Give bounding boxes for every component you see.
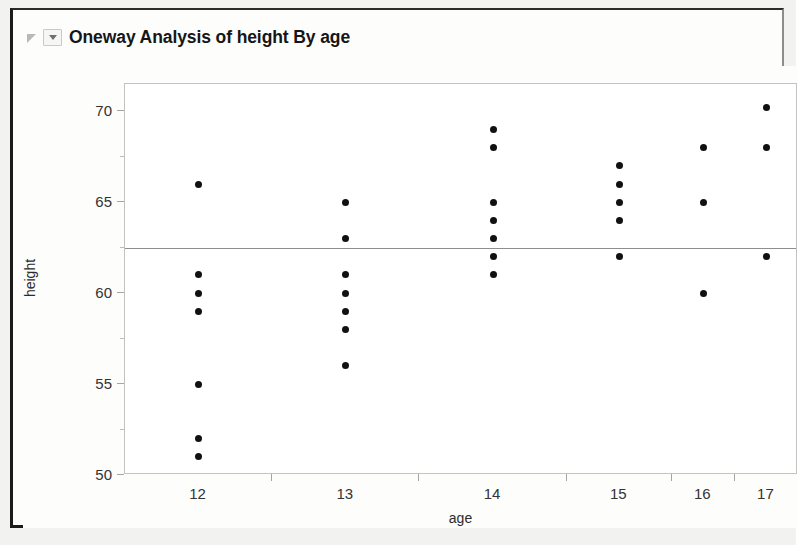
data-point[interactable] bbox=[763, 104, 770, 111]
data-point[interactable] bbox=[490, 144, 497, 151]
y-tick-label-65: 65 bbox=[95, 193, 112, 210]
data-point[interactable] bbox=[616, 162, 623, 169]
data-point[interactable] bbox=[700, 199, 707, 206]
data-point[interactable] bbox=[195, 290, 202, 297]
data-point[interactable] bbox=[490, 126, 497, 133]
data-point[interactable] bbox=[342, 326, 349, 333]
data-point[interactable] bbox=[195, 271, 202, 278]
report-panel: Oneway Analysis of height By age height … bbox=[10, 8, 784, 528]
x-tick-label-15: 15 bbox=[610, 485, 627, 502]
data-point[interactable] bbox=[342, 199, 349, 206]
x-axis: age 121314151617 bbox=[124, 474, 797, 524]
y-tick-55 bbox=[117, 383, 124, 384]
x-tick-label-13: 13 bbox=[336, 485, 353, 502]
x-tick-boundary-1 bbox=[271, 474, 272, 481]
x-tick-label-14: 14 bbox=[484, 485, 501, 502]
y-axis: height 5055606570 bbox=[23, 66, 124, 491]
x-tick-label-16: 16 bbox=[694, 485, 711, 502]
x-tick-label-12: 12 bbox=[189, 485, 206, 502]
data-point[interactable] bbox=[490, 253, 497, 260]
y-tick-label-70: 70 bbox=[95, 102, 112, 119]
report-title-bar: Oneway Analysis of height By age bbox=[27, 22, 350, 52]
data-point[interactable] bbox=[195, 181, 202, 188]
oneway-scatter-plot: height 5055606570 age 121314151617 bbox=[23, 66, 797, 528]
data-point[interactable] bbox=[616, 217, 623, 224]
x-tick-boundary-4 bbox=[671, 474, 672, 481]
data-point[interactable] bbox=[490, 217, 497, 224]
disclosure-triangle-icon[interactable] bbox=[27, 34, 36, 43]
x-tick-label-17: 17 bbox=[757, 485, 774, 502]
x-tick-boundary-3 bbox=[566, 474, 567, 481]
y-axis-title: height bbox=[22, 259, 38, 297]
data-point[interactable] bbox=[342, 271, 349, 278]
data-point[interactable] bbox=[616, 199, 623, 206]
data-point[interactable] bbox=[342, 362, 349, 369]
popup-caret-icon[interactable] bbox=[43, 29, 62, 46]
data-point[interactable] bbox=[700, 290, 707, 297]
x-axis-title: age bbox=[449, 510, 472, 526]
data-point[interactable] bbox=[700, 144, 707, 151]
plot-frame bbox=[124, 83, 797, 474]
data-point[interactable] bbox=[195, 453, 202, 460]
data-point[interactable] bbox=[616, 181, 623, 188]
data-point[interactable] bbox=[342, 235, 349, 242]
page-title: Oneway Analysis of height By age bbox=[69, 27, 350, 48]
y-tick-label-50: 50 bbox=[95, 466, 112, 483]
x-tick-boundary-2 bbox=[418, 474, 419, 481]
data-point[interactable] bbox=[195, 381, 202, 388]
data-point[interactable] bbox=[490, 199, 497, 206]
y-tick-label-60: 60 bbox=[95, 284, 112, 301]
data-point[interactable] bbox=[490, 271, 497, 278]
data-point[interactable] bbox=[763, 144, 770, 151]
data-point[interactable] bbox=[195, 435, 202, 442]
x-tick-boundary-5 bbox=[734, 474, 735, 481]
data-point[interactable] bbox=[763, 253, 770, 260]
y-tick-70 bbox=[117, 110, 124, 111]
data-point[interactable] bbox=[616, 253, 623, 260]
data-point[interactable] bbox=[342, 290, 349, 297]
data-point[interactable] bbox=[195, 308, 202, 315]
y-tick-65 bbox=[117, 201, 124, 202]
y-tick-50 bbox=[117, 474, 124, 475]
grand-mean-line bbox=[125, 248, 796, 249]
data-point[interactable] bbox=[342, 308, 349, 315]
y-tick-label-55: 55 bbox=[95, 375, 112, 392]
data-point[interactable] bbox=[490, 235, 497, 242]
y-tick-60 bbox=[117, 292, 124, 293]
